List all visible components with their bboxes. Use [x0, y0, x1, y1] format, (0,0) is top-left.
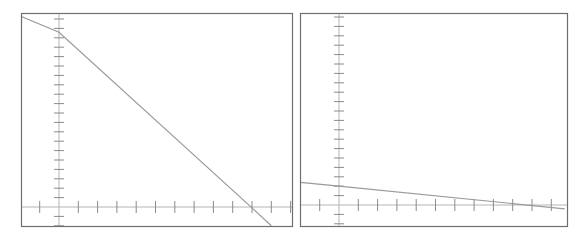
plot-area [300, 13, 571, 226]
chart-panel-1 [20, 13, 292, 227]
plot-area [20, 13, 292, 226]
plot-frame [22, 14, 293, 227]
chart-panel-2 [300, 13, 571, 227]
figure [0, 0, 587, 240]
